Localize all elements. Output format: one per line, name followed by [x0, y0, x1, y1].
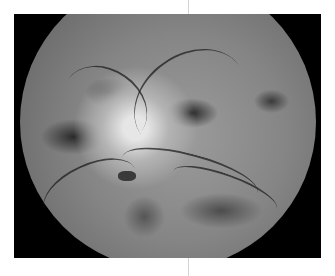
fundus-photo-frame: [14, 14, 321, 258]
vessel-upper-left: [47, 50, 162, 161]
retina-fundus: [20, 14, 316, 258]
optic-disc: [118, 171, 136, 181]
